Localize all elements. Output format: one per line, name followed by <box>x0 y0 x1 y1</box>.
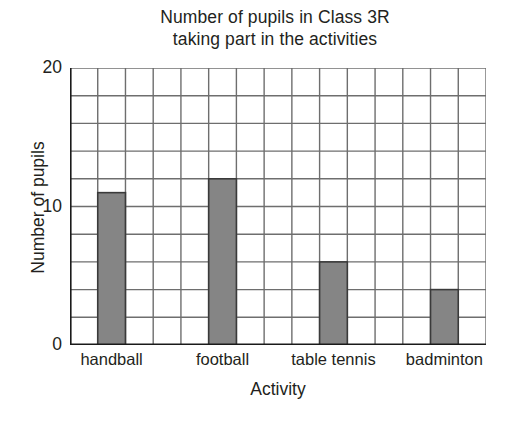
y-tick-label-10: 10 <box>16 198 62 216</box>
plot-svg <box>70 68 486 345</box>
bar-handball <box>98 193 126 345</box>
chart-title: Number of pupils in Class 3R taking part… <box>105 6 445 50</box>
y-tick-label-20: 20 <box>16 59 62 77</box>
bar-table-tennis <box>320 262 348 345</box>
bar-football <box>209 179 237 345</box>
bar-chart-figure: Number of pupils in Class 3R taking part… <box>0 0 510 421</box>
chart-title-line-2: taking part in the activities <box>105 28 445 50</box>
chart-title-line-1: Number of pupils in Class 3R <box>105 6 445 28</box>
gridlines <box>70 68 486 345</box>
bar-badminton <box>431 290 459 345</box>
x-tick-label-badminton: badminton <box>374 350 510 369</box>
plot-area <box>70 68 486 345</box>
x-axis-title: Activity <box>70 379 486 400</box>
